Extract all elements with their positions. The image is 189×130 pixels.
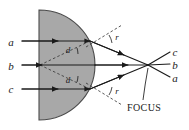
angle-label-d-upper: d xyxy=(66,45,71,55)
angle-label-r-upper: r xyxy=(115,32,119,42)
diverging-ray-b xyxy=(148,64,170,65)
reflected-rays-group xyxy=(90,41,148,89)
angle-label-r-lower: r xyxy=(115,86,119,96)
ray-diagram-figure: a b c c b a d d r r FOCUS xyxy=(0,0,189,130)
diverging-ray-c xyxy=(148,52,170,65)
ray-diagram-canvas: a b c c b a d d r r FOCUS xyxy=(0,0,189,130)
incoming-ray-label-b: b xyxy=(8,60,14,72)
incoming-ray-label-a: a xyxy=(8,36,14,48)
focus-leader-line xyxy=(143,68,148,100)
incoming-ray-label-c: c xyxy=(9,83,14,95)
focus-leader-group xyxy=(143,68,148,100)
reflected-ray-a-midarrow xyxy=(90,41,124,55)
angle-arc-r-upper xyxy=(109,35,112,43)
outgoing-ray-label-a: a xyxy=(172,72,178,84)
angle-arc-r-lower xyxy=(109,87,112,95)
outgoing-ray-label-b: b xyxy=(172,59,178,71)
diverging-rays-group xyxy=(148,52,170,77)
outgoing-ray-label-c: c xyxy=(173,46,178,58)
focus-label: FOCUS xyxy=(127,102,161,113)
diverging-ray-a xyxy=(148,65,170,77)
reflected-ray-c-midarrow xyxy=(90,75,124,89)
angle-label-d-lower: d xyxy=(66,75,71,85)
